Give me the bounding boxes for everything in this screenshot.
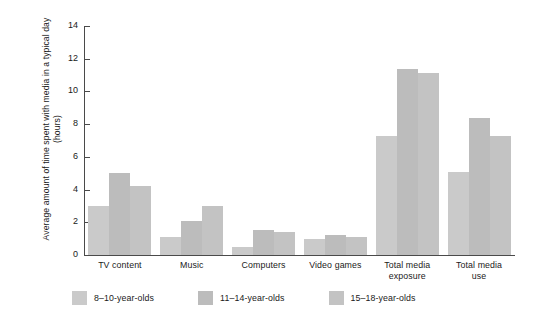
y-axis-tick-label: 12 bbox=[58, 53, 78, 63]
x-axis-category-label: Total mediause bbox=[434, 260, 524, 281]
bar[interactable] bbox=[181, 221, 202, 255]
y-axis-title: Average amount of time spent with media … bbox=[41, 14, 63, 244]
legend-swatch-icon bbox=[329, 291, 344, 305]
bar[interactable] bbox=[253, 230, 274, 255]
bar-group bbox=[304, 26, 367, 255]
bar[interactable] bbox=[232, 247, 253, 255]
y-axis-tick-label: 0 bbox=[58, 249, 78, 259]
bar[interactable] bbox=[274, 232, 295, 255]
bar[interactable] bbox=[109, 173, 130, 255]
bar[interactable] bbox=[325, 235, 346, 255]
bar[interactable] bbox=[397, 69, 418, 255]
bar-group bbox=[376, 26, 439, 255]
y-axis-tick bbox=[84, 255, 90, 256]
legend-item[interactable]: 11–14-year-olds bbox=[198, 291, 284, 305]
legend-item-label: 15–18-year-olds bbox=[351, 293, 416, 303]
bar-group-bars bbox=[88, 26, 151, 255]
y-axis-tick-label: 4 bbox=[58, 184, 78, 194]
legend-item[interactable]: 15–18-year-olds bbox=[329, 291, 416, 305]
legend: 8–10-year-olds 11–14-year-olds 15–18-yea… bbox=[72, 291, 460, 305]
bar-group-bars bbox=[448, 26, 511, 255]
bar-group bbox=[232, 26, 295, 255]
y-axis-tick-label: 2 bbox=[58, 216, 78, 226]
bar[interactable] bbox=[304, 239, 325, 255]
bar[interactable] bbox=[346, 237, 367, 255]
bar[interactable] bbox=[160, 237, 181, 255]
bar-group bbox=[160, 26, 223, 255]
legend-item-label: 11–14-year-olds bbox=[220, 293, 284, 303]
bar[interactable] bbox=[448, 172, 469, 255]
bar-chart-figure: Average amount of time spent with media … bbox=[0, 0, 534, 322]
bar[interactable] bbox=[202, 206, 223, 255]
bar[interactable] bbox=[88, 206, 109, 255]
legend-item[interactable]: 8–10-year-olds bbox=[72, 291, 154, 305]
bar-group-bars bbox=[304, 26, 367, 255]
bar-group-bars bbox=[232, 26, 295, 255]
y-axis-tick-label: 8 bbox=[58, 118, 78, 128]
y-axis-tick-label: 6 bbox=[58, 151, 78, 161]
bar[interactable] bbox=[130, 186, 151, 255]
bar[interactable] bbox=[418, 73, 439, 255]
y-axis-tick-label: 14 bbox=[58, 20, 78, 30]
bar-group bbox=[448, 26, 511, 255]
bar-group bbox=[88, 26, 151, 255]
legend-swatch-icon bbox=[198, 291, 213, 305]
x-axis-category-label-line: use bbox=[434, 271, 524, 282]
y-axis-tick-label: 10 bbox=[58, 85, 78, 95]
bar[interactable] bbox=[490, 136, 511, 255]
bar[interactable] bbox=[376, 136, 397, 255]
plot-area bbox=[84, 26, 515, 255]
legend-item-label: 8–10-year-olds bbox=[94, 293, 154, 303]
x-axis-line bbox=[84, 255, 515, 256]
bar[interactable] bbox=[469, 118, 490, 255]
x-axis-category-label-line: Total media bbox=[434, 260, 524, 271]
bar-group-bars bbox=[376, 26, 439, 255]
legend-swatch-icon bbox=[72, 291, 87, 305]
bar-group-bars bbox=[160, 26, 223, 255]
